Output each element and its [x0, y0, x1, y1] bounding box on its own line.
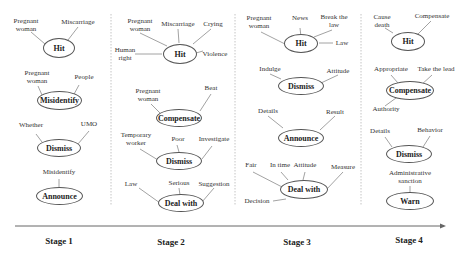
- node-hit: Hit: [391, 32, 425, 51]
- term-crying: Crying: [203, 20, 222, 28]
- term-pregnant-woman: Pregnantwoman: [247, 14, 272, 30]
- node-hit: Hit: [43, 38, 75, 58]
- node-dismiss: Dismiss: [278, 77, 324, 95]
- term-pregnant-woman: Pregnantwoman: [136, 87, 161, 103]
- term-break-the-law: Break thelaw: [320, 13, 347, 29]
- node-deal-with: Deal with: [280, 180, 328, 199]
- term-appropriate: Appropriate: [374, 65, 408, 73]
- term-result: Result: [326, 108, 344, 116]
- term-law: Law: [125, 180, 137, 188]
- term-pregnant-woman: Pregnantwoman: [25, 69, 50, 85]
- term-administrative-sanction: Administrativesanction: [389, 169, 431, 185]
- term-violence: Violence: [203, 50, 228, 58]
- term-news: News: [292, 14, 308, 22]
- node-announce: Announce: [36, 187, 83, 205]
- term-pregnant-woman: Pregnantwoman: [14, 17, 39, 33]
- term-umo: UMO: [81, 120, 97, 128]
- term-details: Details: [370, 127, 390, 135]
- node-compensate: Compensate: [386, 81, 434, 100]
- term-law: Law: [336, 39, 348, 47]
- term-details: Details: [258, 107, 278, 115]
- term-behavior: Behavior: [417, 126, 443, 134]
- term-people: People: [74, 73, 93, 81]
- term-in-time: In time: [270, 161, 290, 169]
- term-authority: Authority: [372, 105, 399, 113]
- stage-label-3: Stage 3: [283, 237, 311, 247]
- term-miscarriage: Miscarriage: [61, 18, 94, 26]
- node-warn: Warn: [386, 192, 434, 210]
- term-measure: Measure: [331, 163, 355, 171]
- stage-label-1: Stage 1: [45, 236, 73, 246]
- term-indulge: Indulge: [259, 65, 280, 73]
- node-misidentify: Misidentify: [37, 91, 82, 110]
- node-dismiss: Dismiss: [37, 139, 81, 157]
- node-dismiss: Dismiss: [156, 152, 202, 170]
- stage-keyword-diagram: Pregnantwoman Miscarriage Hit Pregnantwo…: [0, 0, 466, 261]
- term-take-the-lead: Take the lead: [417, 65, 454, 73]
- term-cause-death: Causedeath: [373, 13, 390, 29]
- term-attitude: Attitude: [327, 67, 350, 75]
- term-pregnant-woman: Pregnantwoman: [128, 17, 153, 33]
- node-hit: Hit: [163, 44, 197, 64]
- term-compensate: Compensate: [415, 12, 450, 20]
- timeline-arrow: [15, 224, 446, 229]
- term-fair: Fair: [245, 161, 256, 169]
- node-dismiss: Dismiss: [386, 145, 432, 163]
- node-compensate: Compensate: [156, 109, 202, 127]
- term-whether: Whether: [19, 121, 43, 129]
- term-human-right: Humanright: [115, 46, 136, 62]
- term-decision: Decision: [245, 197, 270, 205]
- node-announce: Announce: [278, 129, 324, 147]
- term-temporary-worker: Temporaryworker: [121, 131, 152, 147]
- stage-label-4: Stage 4: [395, 235, 423, 245]
- stage-label-2: Stage 2: [157, 237, 185, 247]
- term-investigate: Investigate: [199, 135, 230, 143]
- term-serious: Serious: [169, 179, 190, 187]
- term-beat: Beat: [205, 84, 218, 92]
- node-deal-with: Deal with: [158, 194, 204, 212]
- node-hit: Hit: [284, 34, 318, 53]
- term-attitude: Attitude: [294, 161, 317, 169]
- term-poor: Poor: [171, 135, 184, 143]
- term-suggestion: Suggestion: [198, 180, 229, 188]
- term-miscarriage: Miscarriage: [161, 20, 194, 28]
- term-misidentify: Misidentify: [43, 168, 76, 176]
